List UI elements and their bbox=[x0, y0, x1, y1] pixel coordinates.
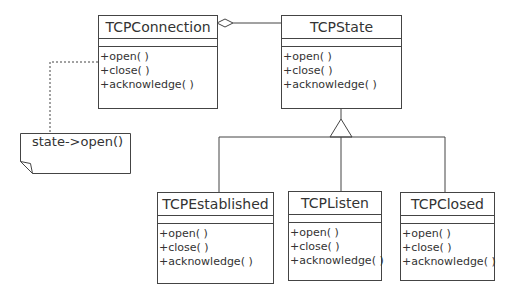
operation: +open( ) bbox=[159, 227, 273, 241]
operation: +open( ) bbox=[290, 226, 381, 240]
note[interactable]: state->open() bbox=[20, 133, 131, 174]
class-tcpstate[interactable]: TCPState +open( ) +close( ) +acknowledge… bbox=[281, 15, 402, 109]
class-tcpclosed[interactable]: TCPClosed +open( ) +close( ) +acknowledg… bbox=[400, 192, 495, 281]
aggregation-diamond bbox=[217, 19, 233, 27]
operation: +open( ) bbox=[402, 227, 494, 241]
operation: +acknowledge( ) bbox=[100, 78, 217, 92]
attributes-compartment bbox=[99, 39, 217, 47]
operation: +acknowledge( ) bbox=[283, 78, 401, 92]
class-name: TCPClosed bbox=[401, 193, 494, 216]
note-anchor-line bbox=[50, 62, 98, 133]
operation: +open( ) bbox=[100, 50, 217, 64]
operations-compartment: +open( ) +close( ) +acknowledge( ) bbox=[99, 47, 217, 92]
class-name: TCPConnection bbox=[99, 16, 217, 39]
operation: +open( ) bbox=[283, 50, 401, 64]
operations-compartment: +open( ) +close( ) +acknowledge( ) bbox=[158, 224, 273, 269]
class-name: TCPEstablished bbox=[158, 193, 273, 216]
attributes-compartment bbox=[289, 215, 381, 223]
operation: +close( ) bbox=[283, 64, 401, 78]
class-tcplisten[interactable]: TCPListen +open( ) +close( ) +acknowledg… bbox=[288, 191, 382, 281]
note-text: state->open() bbox=[32, 134, 123, 149]
class-tcpestablished[interactable]: TCPEstablished +open( ) +close( ) +ackno… bbox=[157, 192, 274, 284]
class-name: TCPState bbox=[282, 16, 401, 39]
operation: +close( ) bbox=[159, 241, 273, 255]
operations-compartment: +open( ) +close( ) +acknowledge( ) bbox=[282, 47, 401, 92]
generalization-triangle bbox=[330, 119, 352, 137]
operation: +acknowledge( ) bbox=[290, 254, 381, 268]
operation: +close( ) bbox=[402, 241, 494, 255]
class-tcpconnection[interactable]: TCPConnection +open( ) +close( ) +acknow… bbox=[98, 15, 218, 109]
attributes-compartment bbox=[401, 216, 494, 224]
operation: +acknowledge( ) bbox=[402, 255, 494, 269]
attributes-compartment bbox=[158, 216, 273, 224]
attributes-compartment bbox=[282, 39, 401, 47]
operations-compartment: +open( ) +close( ) +acknowledge( ) bbox=[289, 223, 381, 268]
operations-compartment: +open( ) +close( ) +acknowledge( ) bbox=[401, 224, 494, 269]
operation: +acknowledge( ) bbox=[159, 255, 273, 269]
operation: +close( ) bbox=[290, 240, 381, 254]
operation: +close( ) bbox=[100, 64, 217, 78]
class-name: TCPListen bbox=[289, 192, 381, 215]
